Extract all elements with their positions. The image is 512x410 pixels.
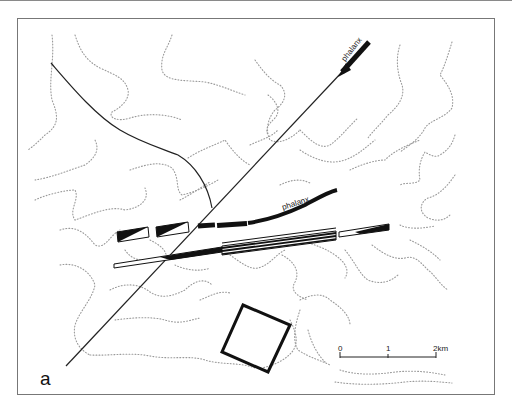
scale-tick-1: 1 (386, 344, 391, 353)
scale-tick-0: 0 (338, 344, 343, 353)
river-line (51, 63, 212, 208)
scale-tick-2km: 2km (433, 344, 448, 353)
wedge-units (117, 222, 189, 242)
panel-label: a (40, 368, 51, 390)
battle-map: phalanx phalanx 0 1 (0, 0, 512, 410)
phalanx-segments (198, 221, 247, 229)
scale-bar: 0 1 2km (338, 344, 448, 358)
line-formation (114, 224, 389, 268)
diagonal-line (66, 72, 342, 366)
contour-lines (28, 35, 455, 384)
camp-square (222, 305, 290, 372)
